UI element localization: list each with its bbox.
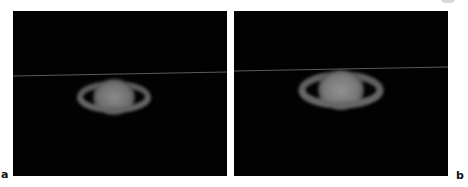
horizontal-line [13, 72, 227, 76]
cropped-corner-mark [440, 0, 456, 3]
saturn-image-a [13, 11, 227, 176]
image-panel-b [234, 11, 448, 176]
panel-label-b: b [456, 170, 464, 181]
image-panel-a [13, 11, 227, 176]
saturn-image-b [234, 11, 448, 176]
panel-label-a: a [1, 169, 8, 180]
